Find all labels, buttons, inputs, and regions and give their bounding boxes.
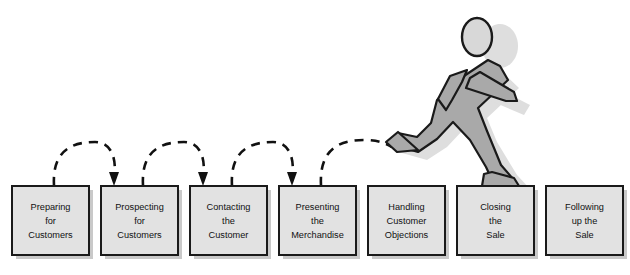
- step-label-line-2: the: [222, 216, 235, 226]
- step-box-group: Preparing for Customers Prospecting for …: [12, 186, 627, 259]
- step-label-line-1: Preparing: [31, 202, 71, 212]
- step-label-line-3: Customer: [209, 230, 249, 240]
- arc-group: [54, 140, 392, 186]
- arc-step-1-to-step-2: [54, 142, 119, 186]
- step-label-line-3: Objections: [385, 230, 429, 240]
- step-label-line-2: the: [311, 216, 324, 226]
- arc-step-3-to-step-4: [232, 142, 297, 186]
- step-box-6[interactable]: Closing the Sale: [457, 186, 538, 259]
- step-box-1[interactable]: Preparing for Customers: [12, 186, 93, 259]
- step-label-line-1: Handling: [388, 202, 424, 212]
- running-figure: [386, 18, 531, 190]
- step-label-line-2: Customer: [387, 216, 427, 226]
- arc-path: [321, 140, 392, 186]
- step-label-line-3: Merchandise: [291, 230, 344, 240]
- diagram-canvas: Preparing for Customers Prospecting for …: [0, 0, 630, 275]
- arrowhead-icon: [198, 172, 208, 186]
- step-box-3[interactable]: Contacting the Customer: [190, 186, 271, 259]
- step-label-line-1: Presenting: [296, 202, 340, 212]
- step-label-line-1: Prospecting: [115, 202, 164, 212]
- arc-step-4-to-figure: [321, 140, 392, 186]
- step-label-line-1: Following: [565, 202, 604, 212]
- step-box-2[interactable]: Prospecting for Customers: [101, 186, 182, 259]
- arc-path: [54, 142, 115, 186]
- step-label-line-2: up the: [572, 216, 598, 226]
- step-label-line-3: Sale: [486, 230, 504, 240]
- process-flow-diagram: Preparing for Customers Prospecting for …: [0, 0, 630, 275]
- arc-step-2-to-step-3: [143, 142, 208, 186]
- step-label-line-3: Sale: [575, 230, 593, 240]
- arc-path: [143, 142, 204, 186]
- step-label-line-1: Closing: [480, 202, 511, 212]
- step-label-line-2: for: [134, 216, 145, 226]
- step-box-5[interactable]: Handling Customer Objections: [368, 186, 449, 259]
- step-label-line-2: for: [45, 216, 56, 226]
- arrowhead-icon: [287, 172, 297, 186]
- step-label-line-3: Customers: [117, 230, 162, 240]
- step-label-line-2: the: [489, 216, 502, 226]
- step-label-line-1: Contacting: [207, 202, 251, 212]
- arc-path: [232, 142, 293, 186]
- figure-head: [462, 18, 492, 56]
- step-box-7[interactable]: Following up the Sale: [546, 186, 627, 259]
- step-label-line-3: Customers: [28, 230, 73, 240]
- step-box-4[interactable]: Presenting the Merchandise: [279, 186, 360, 259]
- arrowhead-icon: [109, 172, 119, 186]
